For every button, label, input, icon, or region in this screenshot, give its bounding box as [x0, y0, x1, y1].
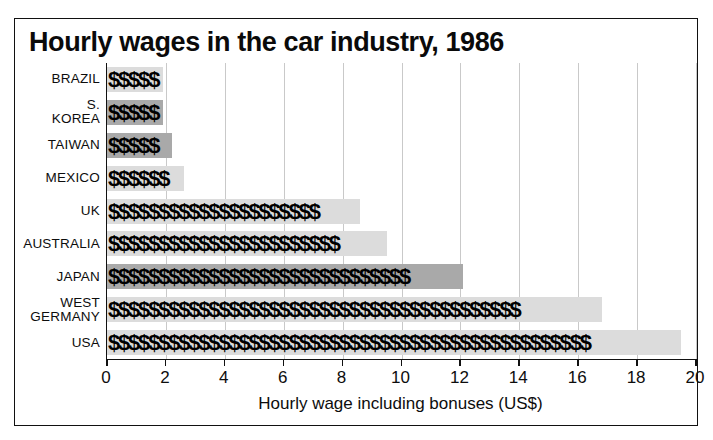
tick-label: 8	[337, 368, 346, 388]
bar: $$$$$$$$$$$$$$$$$$$$$$$$$$$$$$	[107, 264, 463, 289]
bar-row-label: AUSTRALIA	[23, 237, 100, 251]
bar-row: MEXICO$$$$$$	[107, 162, 696, 195]
x-axis-ticks: 02468101214161820	[106, 359, 695, 389]
tick-label: 10	[391, 368, 410, 388]
tick-mark	[401, 359, 403, 366]
tick-mark	[283, 359, 285, 366]
tick-label: 16	[568, 368, 587, 388]
bar-dollar-glyphs: $$$$$$$$$$$$$$$$$$$$$$$$$$$$$$$$$$$$$$$$…	[108, 297, 519, 322]
tick-mark	[636, 359, 638, 366]
bar-row: USA$$$$$$$$$$$$$$$$$$$$$$$$$$$$$$$$$$$$$…	[107, 326, 696, 359]
tick-mark	[342, 359, 344, 366]
chart-title: Hourly wages in the car industry, 1986	[29, 27, 504, 58]
bar-rows: BRAZIL$$$$$S. KOREA$$$$$TAIWAN$$$$$MEXIC…	[107, 63, 696, 359]
bar-dollar-glyphs: $$$$$$$$$$$$$$$$$$$$$	[108, 199, 319, 224]
tick-label: 6	[278, 368, 287, 388]
bar-row-label: WEST GERMANY	[30, 296, 100, 324]
bar-dollar-glyphs: $$$$$	[108, 133, 158, 158]
tick-label: 20	[686, 368, 705, 388]
bar: $$$$$$$$$$$$$$$$$$$$$$$$$$$$$$$$$$$$$$$$…	[107, 330, 681, 355]
bar-dollar-glyphs: $$$$$$	[108, 166, 168, 191]
tick-label: 0	[101, 368, 110, 388]
tick-label: 2	[160, 368, 169, 388]
bar: $$$$$$$$$$$$$$$$$$$$$	[107, 199, 360, 224]
bar-row: JAPAN$$$$$$$$$$$$$$$$$$$$$$$$$$$$$$	[107, 260, 696, 293]
tick-mark	[518, 359, 520, 366]
tick-label: 4	[219, 368, 228, 388]
bar-row-label: BRAZIL	[52, 72, 100, 86]
tick-label: 18	[627, 368, 646, 388]
bar-dollar-glyphs: $$$$$$$$$$$$$$$$$$$$$$$	[108, 231, 339, 256]
plot-area: BRAZIL$$$$$S. KOREA$$$$$TAIWAN$$$$$MEXIC…	[106, 63, 696, 359]
bar: $$$$$	[107, 100, 163, 125]
bar-row: BRAZIL$$$$$	[107, 63, 696, 96]
tick-mark	[695, 359, 697, 366]
bar-dollar-glyphs: $$$$$$$$$$$$$$$$$$$$$$$$$$$$$$$$$$$$$$$$…	[108, 330, 590, 355]
tick-mark	[459, 359, 461, 366]
bar-row: UK$$$$$$$$$$$$$$$$$$$$$	[107, 195, 696, 228]
gridline	[696, 63, 697, 359]
bar-row: AUSTRALIA$$$$$$$$$$$$$$$$$$$$$$$	[107, 227, 696, 260]
tick-label: 14	[509, 368, 528, 388]
bar-row: WEST GERMANY$$$$$$$$$$$$$$$$$$$$$$$$$$$$…	[107, 293, 696, 326]
tick-mark	[224, 359, 226, 366]
tick-mark	[165, 359, 167, 366]
bar: $$$$$$$$$$$$$$$$$$$$$$$	[107, 231, 387, 256]
tick-mark	[577, 359, 579, 366]
bar-dollar-glyphs: $$$$$	[108, 100, 158, 125]
bar-row-label: USA	[72, 336, 100, 350]
bar: $$$$$$	[107, 166, 184, 191]
x-axis-title: Hourly wage including bonuses (US$)	[106, 394, 695, 414]
bar-row-label: JAPAN	[56, 270, 100, 284]
chart-frame: Hourly wages in the car industry, 1986 B…	[14, 18, 698, 426]
bar-row-label: MEXICO	[46, 171, 100, 185]
tick-label: 12	[450, 368, 469, 388]
bar: $$$$$	[107, 67, 163, 92]
bar-dollar-glyphs: $$$$$$$$$$$$$$$$$$$$$$$$$$$$$$	[108, 264, 409, 289]
bar-row: TAIWAN$$$$$	[107, 129, 696, 162]
bar-row-label: S. KOREA	[52, 98, 100, 126]
bar: $$$$$$$$$$$$$$$$$$$$$$$$$$$$$$$$$$$$$$$$…	[107, 297, 602, 322]
bar-row-label: UK	[81, 204, 100, 218]
bar: $$$$$	[107, 133, 172, 158]
tick-mark	[106, 359, 108, 366]
bar-row: S. KOREA$$$$$	[107, 96, 696, 129]
bar-dollar-glyphs: $$$$$	[108, 67, 158, 92]
bar-row-label: TAIWAN	[48, 138, 100, 152]
